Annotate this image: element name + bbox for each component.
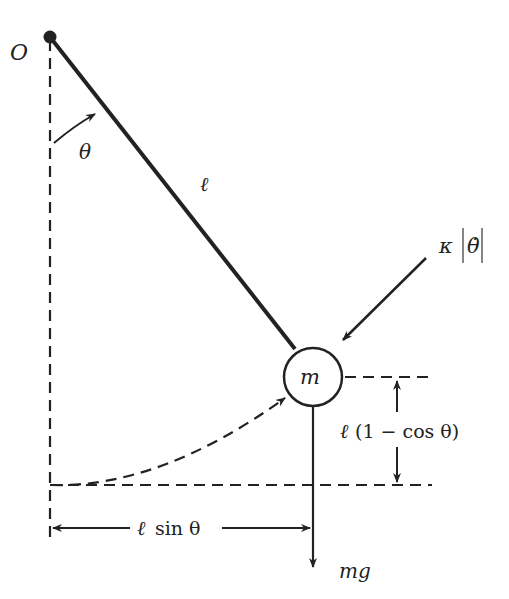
swing-path-arrow (52, 398, 285, 485)
origin-label: O (10, 40, 28, 65)
damping-theta-dot-label: θ̇ (467, 234, 480, 258)
pendulum-rod (50, 37, 295, 349)
length-label: ℓ (200, 172, 209, 196)
height-expr-label: (1 − cos θ) (355, 420, 459, 442)
angle-label: θ (79, 140, 91, 164)
horizontal-ell-label: ℓ (137, 516, 146, 540)
pendulum-diagram: O θ ℓ m κ θ̇ ℓ (1 − cos θ) ℓ sin θ mg (0, 0, 509, 599)
angle-arc-arrow (54, 114, 95, 143)
horizontal-expr-label: sin θ (155, 517, 201, 539)
damping-kappa-label: κ (438, 234, 453, 258)
weight-label: mg (339, 559, 371, 583)
mass-label: m (300, 365, 320, 389)
height-ell-label: ℓ (340, 419, 349, 443)
pivot-point (44, 31, 57, 44)
damping-force-arrow (343, 258, 426, 340)
